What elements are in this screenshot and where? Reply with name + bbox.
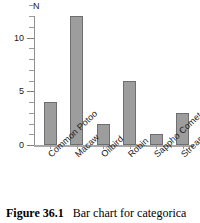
y-axis-line bbox=[34, 16, 35, 146]
figure-number: Figure 36.1 bbox=[6, 206, 64, 220]
y-tick-major bbox=[27, 91, 34, 92]
y-tick-label: 5 bbox=[0, 87, 24, 96]
bar bbox=[44, 102, 57, 145]
y-tick-label: 10 bbox=[0, 34, 24, 43]
bar bbox=[123, 81, 136, 146]
y-tick-minor bbox=[29, 124, 34, 125]
y-tick-minor bbox=[29, 48, 34, 49]
y-tick-major bbox=[27, 38, 34, 39]
y-tick-minor bbox=[29, 81, 34, 82]
y-tick-minor bbox=[29, 16, 34, 17]
figure-caption: Figure 36.1Bar chart for categorica bbox=[6, 206, 200, 221]
y-tick-minor bbox=[29, 70, 34, 71]
y-tick-minor bbox=[29, 27, 34, 28]
figure-caption-text: Bar chart for categorica bbox=[73, 206, 187, 220]
y-tick-minor bbox=[29, 59, 34, 60]
y-tick-minor bbox=[29, 113, 34, 114]
y-tick-minor bbox=[29, 134, 34, 135]
y-tick-major bbox=[27, 145, 34, 146]
bar-chart-plot: N 0510 Common PotooMacawOilbirdRobinSapp… bbox=[0, 0, 200, 160]
figure-container: N 0510 Common PotooMacawOilbirdRobinSapp… bbox=[0, 0, 200, 223]
y-tick-label: 0 bbox=[0, 141, 24, 150]
y-tick-minor bbox=[29, 102, 34, 103]
y-tick-minor bbox=[29, 5, 34, 6]
